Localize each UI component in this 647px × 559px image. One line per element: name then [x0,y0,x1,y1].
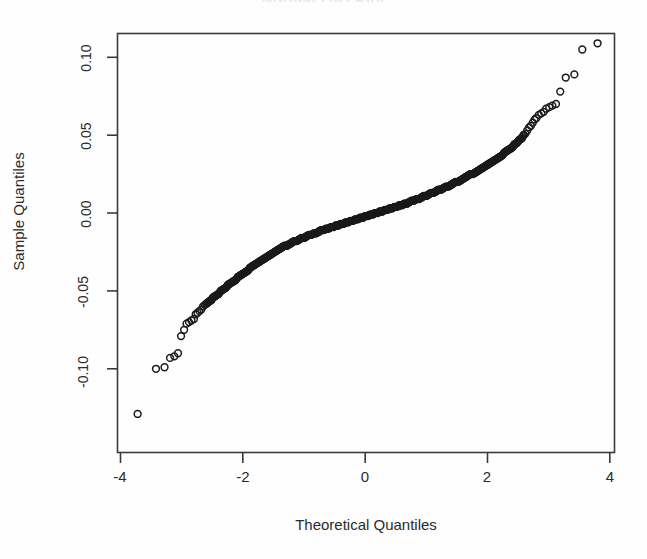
x-axis-ticks [121,453,610,463]
data-point [579,46,586,53]
data-point [153,365,160,372]
axis-frame [118,34,615,453]
scatter-points [134,40,601,417]
data-point [161,364,168,371]
data-point [557,88,564,95]
data-point [571,71,578,78]
plot-canvas [0,0,647,559]
data-point [134,411,141,418]
data-point [562,74,569,81]
qq-plot-figure: Normal Q-Q Plot Sample Quantiles Theoret… [0,0,647,559]
data-point [167,355,174,362]
data-point [594,40,601,47]
y-axis-ticks [107,57,117,369]
